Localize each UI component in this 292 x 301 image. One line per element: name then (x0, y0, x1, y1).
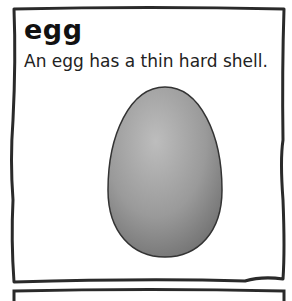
word-title: egg (24, 14, 82, 46)
egg-icon (108, 87, 222, 257)
word-description: An egg has a thin hard shell. (24, 48, 274, 74)
next-card-border (14, 290, 284, 301)
